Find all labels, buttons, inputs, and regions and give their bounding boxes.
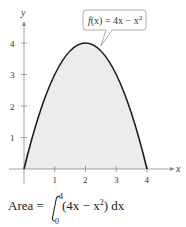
area-formula: Area = 4 0 (4x − x2) dx	[8, 192, 125, 226]
y-tick-label-2: 2	[10, 102, 15, 112]
x-axis-arrow-icon	[170, 167, 175, 171]
chart-canvas: y x 1 2 3 4 1 2 3 4 f(x) = 4x − x2 Area …	[0, 0, 186, 227]
y-tick-label-3: 3	[10, 70, 15, 80]
callout-exponent: 2	[139, 14, 143, 22]
y-tick-label-4: 4	[10, 39, 15, 49]
x-tick-label-4: 4	[145, 175, 150, 185]
integral-lower-limit: 0	[55, 217, 59, 226]
svg-text:(4x − x2) dx: (4x − x2) dx	[62, 198, 125, 213]
function-callout: f(x) = 4x − x2	[83, 10, 146, 46]
x-tick-label-2: 2	[83, 175, 88, 185]
y-axis-arrow-icon	[22, 21, 26, 26]
callout-expression: (x) = 4x − x	[91, 15, 139, 27]
x-tick-label-3: 3	[114, 175, 119, 185]
x-axis-label: x	[175, 163, 181, 174]
integrand-part-a: (4x − x	[62, 198, 100, 213]
y-tick-label-1: 1	[10, 133, 15, 143]
integrand-part-b: ) dx	[104, 198, 125, 213]
x-tick-label-1: 1	[53, 175, 58, 185]
area-word: Area =	[8, 198, 44, 213]
svg-text:f(x) = 4x − x2: f(x) = 4x − x2	[88, 14, 143, 27]
y-axis-label: y	[20, 7, 26, 18]
